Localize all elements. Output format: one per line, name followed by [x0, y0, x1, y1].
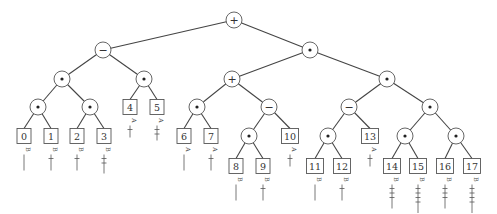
- leaf-label: 6: [181, 131, 187, 142]
- leaf-tag-label: B: [343, 177, 350, 182]
- operator-node: [54, 71, 70, 87]
- expression-tree-diagram: +−+4A5A−−0B1B2B3B6A7A10A13A8B9B11B12B14B…: [0, 0, 497, 213]
- operator-node: [30, 99, 46, 115]
- multiply-dot-icon: [60, 77, 63, 80]
- minus-symbol: −: [264, 101, 273, 114]
- leaf-node: 6A: [177, 129, 192, 171]
- multiply-dot-icon: [36, 105, 39, 108]
- leaf-tag-label: B: [25, 147, 32, 152]
- tree-nodes: +−+4A5A−−0B1B2B3B6A7A10A13A8B9B11B12B14B…: [17, 12, 481, 213]
- leaf-tag-label: B: [316, 177, 323, 182]
- leaf-label: 9: [260, 161, 266, 172]
- leaf-node: 14B: [384, 159, 401, 209]
- operator-node: +: [224, 71, 240, 87]
- leaf-label: 3: [101, 131, 107, 142]
- leaf-label: 2: [74, 131, 80, 142]
- tree-edge: [232, 50, 310, 79]
- leaf-label: 8: [233, 161, 239, 172]
- multiply-dot-icon: [142, 77, 145, 80]
- leaf-node: 15B: [410, 159, 427, 214]
- leaf-tag-label: A: [131, 117, 138, 123]
- multiply-dot-icon: [454, 134, 457, 137]
- operator-node: [397, 128, 413, 144]
- plus-symbol: +: [229, 14, 238, 27]
- leaf-node: 8B: [229, 159, 244, 201]
- leaf-node: 4A: [123, 100, 138, 138]
- operator-node: [320, 128, 336, 144]
- operator-node: [189, 99, 205, 115]
- multiply-dot-icon: [403, 134, 406, 137]
- leaf-node: 11B: [307, 159, 324, 201]
- leaf-tag-label: A: [371, 146, 378, 152]
- leaf-tag-label: A: [185, 146, 192, 152]
- multiply-dot-icon: [385, 77, 388, 80]
- leaf-node: 0B: [17, 129, 32, 171]
- operator-node: [379, 71, 395, 87]
- minus-symbol: −: [344, 101, 353, 114]
- leaf-label: 13: [364, 131, 376, 142]
- leaf-tag-label: A: [291, 146, 298, 152]
- operator-node: [241, 128, 257, 144]
- operator-node: [422, 99, 438, 115]
- operator-node: −: [95, 42, 111, 58]
- plus-symbol: +: [227, 73, 236, 86]
- leaf-node: 5A: [150, 100, 165, 141]
- tree-edge: [310, 50, 387, 79]
- leaf-node: 7A: [204, 129, 219, 171]
- leaf-label: 1: [48, 131, 54, 142]
- leaf-node: 9B: [256, 159, 271, 201]
- leaf-tag-label: B: [237, 177, 244, 182]
- leaf-node: 10A: [282, 129, 299, 167]
- multiply-dot-icon: [195, 105, 198, 108]
- leaf-label: 0: [21, 131, 27, 142]
- leaf-tag-label: A: [212, 146, 219, 152]
- leaf-label: 17: [466, 161, 478, 172]
- leaf-label: 7: [208, 131, 214, 142]
- leaf-label: 16: [439, 161, 451, 172]
- leaf-tag-label: A: [158, 117, 165, 123]
- operator-node: +: [226, 12, 242, 28]
- leaf-label: 4: [127, 102, 133, 113]
- tree-edge: [234, 20, 310, 50]
- leaf-node: 3B: [97, 129, 112, 174]
- multiply-dot-icon: [247, 134, 250, 137]
- leaf-node: 12B: [334, 159, 351, 201]
- operator-node: [448, 128, 464, 144]
- leaf-label: 11: [309, 161, 321, 172]
- leaf-tag-label: B: [78, 147, 85, 152]
- multiply-dot-icon: [326, 134, 329, 137]
- multiply-dot-icon: [88, 105, 91, 108]
- leaf-node: 1B: [44, 129, 59, 171]
- leaf-tag-label: B: [393, 177, 400, 182]
- leaf-label: 12: [336, 161, 348, 172]
- operator-node: [302, 42, 318, 58]
- operator-node: −: [341, 99, 357, 115]
- leaf-tag-label: B: [105, 147, 112, 152]
- leaf-tag-label: B: [419, 177, 426, 182]
- leaf-label: 14: [386, 161, 398, 172]
- leaf-node: 17B: [464, 159, 481, 214]
- leaf-node: 16B: [437, 159, 454, 209]
- tree-edge: [103, 20, 234, 50]
- leaf-node: 2B: [70, 129, 85, 171]
- multiply-dot-icon: [308, 48, 311, 51]
- leaf-label: 5: [154, 102, 160, 113]
- leaf-label: 15: [412, 161, 424, 172]
- minus-symbol: −: [98, 44, 107, 57]
- leaf-tag-label: B: [52, 147, 59, 152]
- leaf-tag-label: B: [264, 177, 271, 182]
- operator-node: [82, 99, 98, 115]
- operator-node: −: [261, 99, 277, 115]
- operator-node: [136, 71, 152, 87]
- multiply-dot-icon: [428, 105, 431, 108]
- leaf-label: 10: [284, 131, 296, 142]
- leaf-node: 13A: [362, 129, 379, 167]
- leaf-tag-label: B: [473, 177, 480, 182]
- leaf-tag-label: B: [446, 177, 453, 182]
